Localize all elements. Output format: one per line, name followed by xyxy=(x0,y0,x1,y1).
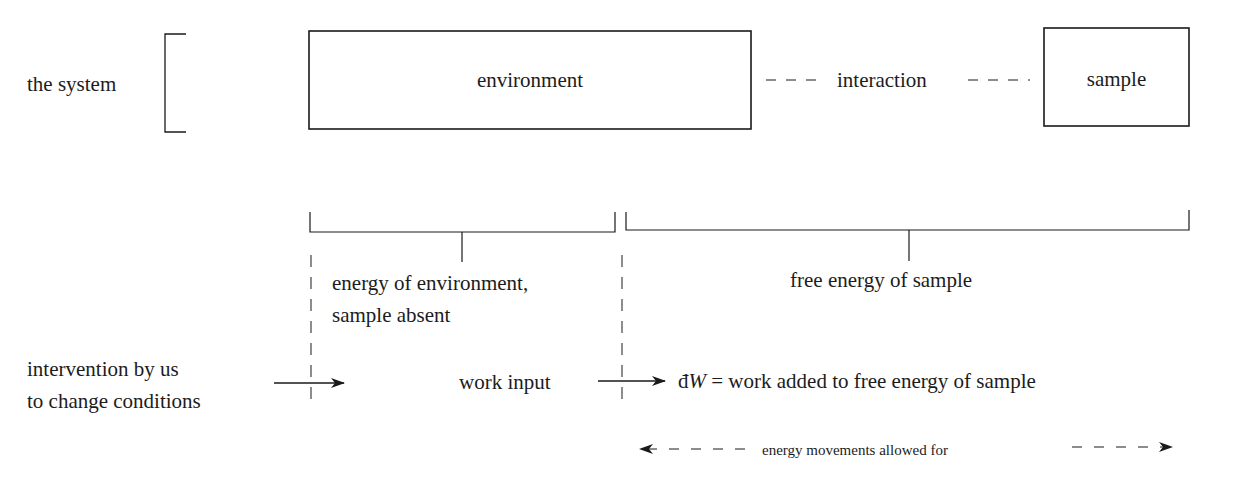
interaction-label: interaction xyxy=(837,67,927,93)
intervention-label-line2: to change conditions xyxy=(27,388,201,414)
work-input-label: work input xyxy=(459,369,551,395)
sample-box: sample xyxy=(1044,66,1189,92)
inexact-differential-symbol: đ xyxy=(678,369,689,393)
intervention-label-line1: intervention by us xyxy=(27,356,179,382)
system-label: the system xyxy=(27,71,116,97)
work-result-text: = work added to free energy of sample xyxy=(706,369,1036,393)
environment-energy-bracket xyxy=(310,212,615,232)
sample-energy-bracket xyxy=(626,210,1189,230)
legend-label: energy movements allowed for xyxy=(762,437,948,463)
environment-energy-label-line2: sample absent xyxy=(332,302,450,328)
work-variable: W xyxy=(689,369,707,393)
work-result-equation: đW = work added to free energy of sample xyxy=(678,368,1036,394)
sample-free-energy-label: free energy of sample xyxy=(790,267,972,293)
environment-energy-label-line1: energy of environment, xyxy=(332,270,528,296)
environment-box: environment xyxy=(309,67,751,93)
system-bracket xyxy=(165,34,186,132)
